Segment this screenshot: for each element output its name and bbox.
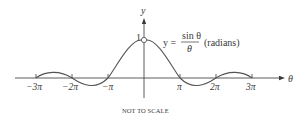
tick-label-pi: π xyxy=(177,82,182,92)
tick-label-neg2pi: −2π xyxy=(62,82,78,92)
y-axis-label: y xyxy=(140,5,146,16)
function-denominator: θ xyxy=(187,43,192,54)
tick-label-negpi: −π xyxy=(102,82,113,92)
y-axis-arrow-icon xyxy=(142,18,146,24)
function-numerator: sin θ xyxy=(182,30,201,41)
tick-label-3pi: 3π xyxy=(245,82,256,92)
function-label: y = sin θ θ (radians) xyxy=(163,30,240,54)
function-lhs: y = xyxy=(163,37,177,48)
function-suffix: (radians) xyxy=(204,37,240,49)
tick-label-neg3pi: −3π xyxy=(26,82,42,92)
open-point-marker xyxy=(141,37,146,42)
not-to-scale-note: NOT TO SCALE xyxy=(122,107,169,114)
x-axis-label: θ xyxy=(288,73,293,84)
x-axis-arrow-icon xyxy=(279,76,285,80)
x-tick-labels: −3π −2π −π π 2π 3π xyxy=(26,82,256,92)
tick-label-2pi: 2π xyxy=(210,82,220,92)
sinc-chart: θ y −3π −2π −π π 2π 3π 1 y = sin θ θ (ra… xyxy=(0,0,308,118)
